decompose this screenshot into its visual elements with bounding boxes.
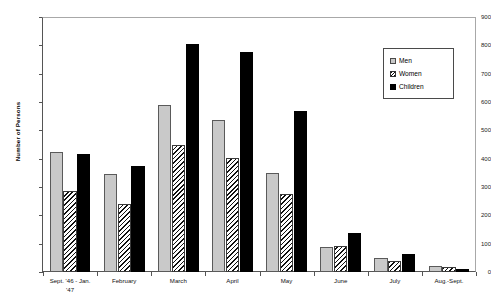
legend-swatch-women-icon [390, 71, 396, 77]
x-axis-tick-mark [43, 272, 44, 276]
legend-swatch-children-icon [390, 84, 396, 90]
x-axis-tick-mark [368, 272, 369, 276]
bar-children [294, 111, 307, 272]
bar-children [186, 44, 199, 272]
legend-item-children: Children [390, 80, 453, 93]
bar-children [240, 52, 253, 272]
bar-women [63, 191, 76, 272]
legend-label: Women [399, 70, 422, 77]
bar-women [388, 261, 401, 272]
legend-item-women: Women [390, 67, 453, 80]
x-axis-category-label-line: June [314, 277, 368, 286]
bar-women [280, 194, 293, 272]
bar-group [97, 17, 151, 272]
x-axis-category-label-line: February [97, 277, 151, 286]
bar-women [442, 267, 455, 272]
bar-men [212, 120, 225, 272]
bar-children [402, 254, 415, 272]
bar-women [226, 158, 239, 272]
x-axis-category-label-line: March [151, 277, 205, 286]
bar-men [266, 173, 279, 272]
bar-men [320, 247, 333, 272]
clipped-title-remnant [0, 0, 491, 4]
x-axis-category-label: April [205, 277, 259, 286]
x-axis-category-label: March [151, 277, 205, 286]
bar-men [374, 258, 387, 272]
legend-label: Children [399, 83, 424, 90]
x-axis-category-label-line: Aug.-Sept. [422, 277, 476, 286]
bar-women [334, 246, 347, 272]
chart-legend: MenWomenChildren [383, 48, 454, 99]
bar-children [348, 233, 361, 272]
bar-group [205, 17, 259, 272]
x-axis-category-label: Sept. '46 - Jan.'47 [43, 277, 97, 294]
bar-women [118, 204, 131, 272]
legend-swatch-men-icon [390, 58, 396, 64]
x-axis-category-label-line: May [260, 277, 314, 286]
x-axis-category-label: Aug.-Sept. [422, 277, 476, 286]
x-axis-tick-mark [97, 272, 98, 276]
bar-children [77, 154, 90, 272]
bar-group [43, 17, 97, 272]
bar-men [158, 105, 171, 272]
x-axis-category-label: July [368, 277, 422, 286]
bar-children [456, 269, 469, 272]
x-axis-category-label: June [314, 277, 368, 286]
bar-children [131, 166, 144, 272]
x-axis-category-label-line: '47 [43, 286, 97, 295]
x-axis-tick-mark [260, 272, 261, 276]
bar-chart: Number of Persons 0100200300400500600700… [0, 0, 491, 301]
x-axis-category-label-line: April [205, 277, 259, 286]
bar-men [429, 266, 442, 272]
x-axis-category-label-line: July [368, 277, 422, 286]
legend-label: Men [399, 57, 412, 64]
bar-men [104, 174, 117, 272]
bar-men [50, 152, 63, 272]
bar-group [151, 17, 205, 272]
x-axis-tick-mark [205, 272, 206, 276]
x-axis-tick-mark [151, 272, 152, 276]
x-axis-tick-mark [314, 272, 315, 276]
y-axis-title: Number of Persons [14, 72, 21, 192]
x-axis-category-label: February [97, 277, 151, 286]
x-axis-category-label: May [260, 277, 314, 286]
x-axis-tick-mark [422, 272, 423, 276]
x-axis-category-label-line: Sept. '46 - Jan. [43, 277, 97, 286]
bar-women [172, 145, 185, 273]
x-axis-tick-mark [476, 272, 477, 276]
bar-group [260, 17, 314, 272]
legend-item-men: Men [390, 54, 453, 67]
bar-group [314, 17, 368, 272]
